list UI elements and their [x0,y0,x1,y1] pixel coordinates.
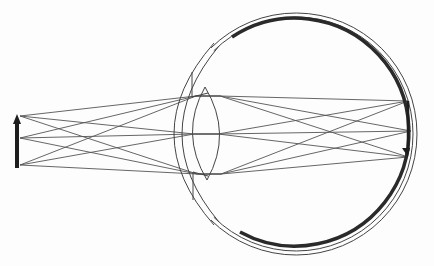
object-arrow [13,114,21,168]
crystalline-lens [192,87,219,180]
light-ray [20,101,408,165]
light-ray [20,131,411,138]
lens-outline [192,87,219,180]
diagram-canvas [0,0,434,266]
eye-optics-diagram [0,0,434,266]
light-ray [20,101,408,174]
light-rays [20,96,411,174]
object-arrow-head [13,114,21,124]
